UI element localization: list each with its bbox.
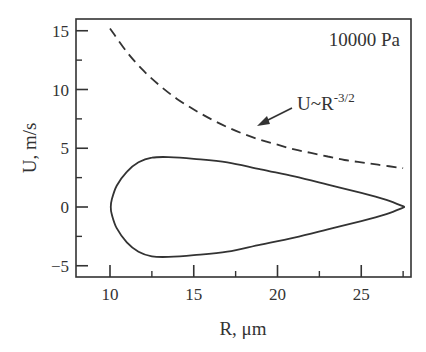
power-law-annotation: U~R-3/2 xyxy=(297,90,355,114)
arrowhead-icon xyxy=(257,116,270,126)
x-axis-label: R, μm xyxy=(219,318,266,339)
x-axis-ticks: 10152025 xyxy=(102,265,404,304)
x-tick-label: 25 xyxy=(353,285,370,304)
x-tick-label: 20 xyxy=(269,285,286,304)
closed-trajectory-curve xyxy=(111,157,405,257)
y-tick-label: 15 xyxy=(52,22,69,41)
x-tick-label: 15 xyxy=(185,285,202,304)
x-tick-label: 10 xyxy=(102,285,119,304)
y-tick-label: 5 xyxy=(61,139,70,158)
pressure-annotation: 10000 Pa xyxy=(329,29,401,50)
y-tick-label: −5 xyxy=(51,257,69,276)
y-tick-label: 10 xyxy=(52,81,69,100)
y-tick-label: 0 xyxy=(61,198,70,217)
plot-frame xyxy=(76,19,411,277)
chart: −5051015 10152025 10000 Pa U~R-3/2 R, μm… xyxy=(0,0,426,352)
y-axis-ticks: −5051015 xyxy=(51,22,88,276)
arrow-annotation xyxy=(257,108,292,126)
y-axis-label: U, m/s xyxy=(19,123,40,174)
